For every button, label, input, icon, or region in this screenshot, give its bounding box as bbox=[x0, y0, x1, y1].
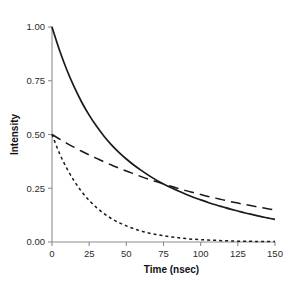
y-tick-label: 1.00 bbox=[27, 21, 46, 32]
series-total-decay bbox=[52, 27, 275, 219]
decay-curve-plot: 0.000.250.500.751.000255075100125150 Tim… bbox=[0, 0, 300, 287]
y-tick-label: 0.50 bbox=[27, 129, 46, 140]
data-series bbox=[52, 27, 275, 242]
x-axis-title: Time (nsec) bbox=[144, 264, 199, 275]
x-tick-label: 150 bbox=[267, 248, 283, 259]
x-tick-label: 50 bbox=[121, 248, 132, 259]
x-tick-label: 0 bbox=[49, 248, 54, 259]
chart-figure: 0.000.250.500.751.000255075100125150 Tim… bbox=[0, 0, 300, 287]
y-axis-title: Intensity bbox=[9, 114, 20, 156]
x-tick-label: 25 bbox=[84, 248, 95, 259]
x-tick-label: 75 bbox=[158, 248, 169, 259]
y-tick-label: 0.00 bbox=[27, 236, 46, 247]
series-slow-component bbox=[52, 135, 275, 210]
axes: 0.000.250.500.751.000255075100125150 bbox=[27, 21, 283, 259]
y-tick-label: 0.25 bbox=[27, 183, 46, 194]
y-tick-label: 0.75 bbox=[27, 75, 46, 86]
x-tick-label: 100 bbox=[193, 248, 209, 259]
series-fast-component bbox=[52, 135, 275, 242]
x-tick-label: 125 bbox=[230, 248, 246, 259]
